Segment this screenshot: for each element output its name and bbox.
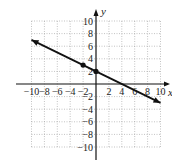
y-tick-label: 4 xyxy=(88,53,93,64)
coordinate-plane: −10−8−6−4−2246810−10−8−6−4−2246810 x y xyxy=(0,0,172,160)
y-tick-label: 8 xyxy=(88,28,93,39)
y-tick-label: 6 xyxy=(88,41,93,52)
y-tick-label: −6 xyxy=(82,116,93,127)
y-tick-label: −4 xyxy=(82,104,93,115)
y-axis-label: y xyxy=(100,5,106,17)
x-tick-label: 4 xyxy=(119,86,124,97)
x-tick-label: −4 xyxy=(65,86,76,97)
x-tick-label: −6 xyxy=(52,86,63,97)
x-tick-label: −10 xyxy=(24,86,40,97)
x-tick-label: 10 xyxy=(156,86,166,97)
y-tick-label: −2 xyxy=(82,91,93,102)
x-axis-label: x xyxy=(167,86,172,98)
x-tick-label: 2 xyxy=(106,86,111,97)
y-tick-label: −8 xyxy=(82,129,93,140)
data-point xyxy=(93,69,98,74)
y-tick-label: −10 xyxy=(77,142,93,153)
y-tick-label: 10 xyxy=(83,16,93,27)
x-tick-label: −8 xyxy=(39,86,50,97)
axes xyxy=(16,9,170,160)
y-axis-arrow-icon xyxy=(94,9,99,16)
data-point xyxy=(81,63,86,68)
